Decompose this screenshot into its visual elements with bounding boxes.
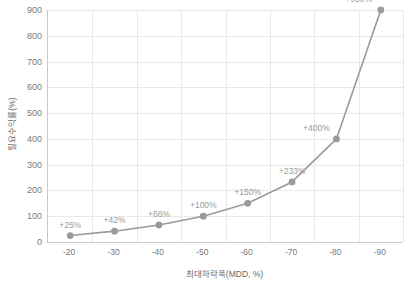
data-point-label: +66% (148, 209, 170, 218)
x-axis-tick-label: -20 (49, 248, 89, 257)
x-axis-tick-label: -90 (360, 248, 400, 257)
data-point-marker (333, 135, 340, 142)
y-axis-tick-label: 800 (8, 31, 42, 40)
y-axis-tick-label: 900 (8, 6, 42, 15)
data-point-marker (289, 179, 296, 186)
data-point-marker (156, 222, 163, 229)
data-point-label: +900% (345, 0, 372, 3)
y-axis-tick-label: 200 (8, 186, 42, 195)
chart-container: 필요수익률(%) 0100200300400500600700800900 +2… (0, 0, 408, 287)
x-axis-tick-label: -80 (315, 248, 355, 257)
x-axis-tick-label: -50 (182, 248, 222, 257)
data-point-label: +150% (234, 188, 261, 197)
data-point-label: +400% (303, 123, 330, 132)
data-point-marker (200, 213, 207, 220)
x-axis-tick-label: -60 (227, 248, 267, 257)
line-series (48, 10, 403, 242)
y-axis-tick-labels: 0100200300400500600700800900 (4, 0, 42, 287)
plot-area: +25%+42%+66%+100%+150%+233%+400%+900% (47, 10, 403, 243)
x-axis-tick-label: -70 (271, 248, 311, 257)
data-point-marker (377, 7, 384, 14)
x-axis-tick-label: -40 (138, 248, 178, 257)
data-point-label: +42% (104, 216, 126, 225)
data-point-label: +100% (190, 201, 217, 210)
series-line (70, 10, 381, 236)
y-axis-tick-label: 500 (8, 109, 42, 118)
x-axis-title: 최대하락폭(MDD, %) (47, 267, 402, 279)
data-point-label: +233% (279, 166, 306, 175)
y-axis-tick-label: 700 (8, 57, 42, 66)
data-point-marker (244, 200, 251, 207)
gridline-vertical (403, 10, 404, 242)
y-axis-tick-label: 400 (8, 134, 42, 143)
data-point-marker (67, 232, 74, 239)
y-axis-tick-label: 600 (8, 83, 42, 92)
y-axis-tick-label: 300 (8, 160, 42, 169)
data-point-marker (111, 228, 118, 235)
y-axis-tick-label: 0 (8, 238, 42, 247)
x-axis-tick-label: -30 (94, 248, 134, 257)
y-axis-tick-label: 100 (8, 212, 42, 221)
data-point-label: +25% (59, 220, 81, 229)
